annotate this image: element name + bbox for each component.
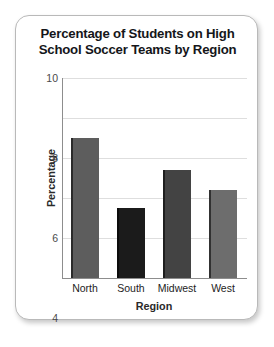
bar-slot-midwest: Midwest <box>163 78 191 278</box>
y-tick-label-10: 10 <box>46 72 58 84</box>
x-tick-label-west: West <box>211 282 235 294</box>
bar-group: NorthSouthMidwestWest <box>62 78 246 278</box>
chart-card: Percentage of Students on High School So… <box>15 15 258 320</box>
bar-north <box>71 138 99 278</box>
x-tick-label-south: South <box>117 282 144 294</box>
bar-slot-north: North <box>71 78 99 278</box>
bar-midwest <box>163 170 191 278</box>
y-tick-label-4: 4 <box>52 312 58 324</box>
bar-slot-west: West <box>209 78 237 278</box>
y-tick-label-8: 8 <box>52 152 58 164</box>
x-tick-label-midwest: Midwest <box>158 282 197 294</box>
x-tick-label-north: North <box>72 282 98 294</box>
bar-south <box>117 208 145 278</box>
plot-wrapper: Percentage 0246810 NorthSouthMidwestWest… <box>16 16 259 321</box>
x-axis-title: Region <box>62 300 246 312</box>
y-tick-label-6: 6 <box>52 232 58 244</box>
bar-slot-south: South <box>117 78 145 278</box>
gridline-0: 0 <box>63 278 247 279</box>
bar-west <box>209 190 237 278</box>
